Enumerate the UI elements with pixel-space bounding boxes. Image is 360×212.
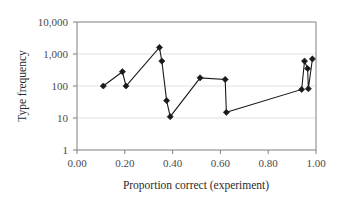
y-tick-label: 100	[52, 80, 69, 92]
y-tick-label: 10	[57, 112, 69, 124]
y-tick-label: 1	[63, 144, 69, 156]
x-tick-label: 0.80	[259, 157, 279, 169]
x-tick-label: 0.00	[67, 157, 87, 169]
x-axis-title: Proportion correct (experiment)	[123, 179, 269, 192]
x-tick-label: 1.00	[306, 157, 326, 169]
y-tick-label: 1,000	[43, 48, 68, 60]
x-tick-label: 0.60	[211, 157, 231, 169]
x-tick-label: 0.40	[163, 157, 183, 169]
y-tick-label: 10,000	[38, 16, 69, 28]
chart-figure: 1101001,00010,000 0.000.200.400.600.801.…	[0, 0, 360, 212]
x-tick-label: 0.20	[115, 157, 135, 169]
y-axis-title: Type frequency	[16, 50, 29, 122]
type-frequency-scatter-line-chart: 1101001,00010,000 0.000.200.400.600.801.…	[0, 0, 360, 212]
